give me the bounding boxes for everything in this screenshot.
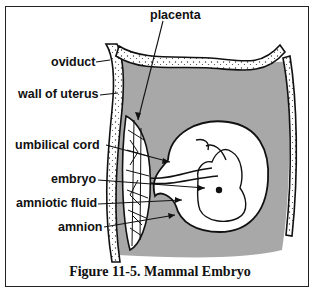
label-placenta: placenta [150, 9, 201, 22]
label-oviduct: oviduct [51, 56, 95, 69]
embryo-eye [216, 187, 222, 193]
label-embryo: embryo [51, 173, 96, 186]
label-wall-of-uterus: wall of uterus [18, 88, 99, 101]
label-umbilical-cord: umbilical cord [15, 139, 100, 152]
label-amniotic-fluid: amniotic fluid [16, 197, 97, 210]
label-amnion: amnion [58, 221, 102, 234]
figure-caption: Figure 11-5. Mammal Embryo [0, 264, 320, 280]
